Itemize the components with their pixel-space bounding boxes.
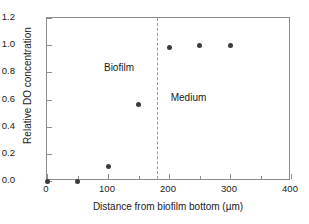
data-point — [228, 43, 233, 48]
biofilm-medium-boundary — [157, 18, 158, 179]
y-axis-tick-label: 0.6 — [0, 94, 15, 104]
y-axis-tick — [47, 154, 52, 155]
y-axis-title: Relative DO concentration — [22, 0, 33, 174]
y-axis-tick — [47, 100, 52, 101]
plot-area: BiofilmMedium — [46, 17, 290, 180]
figure-scatter-do-concentration: 0.00.20.40.60.81.01.2 BiofilmMedium 0100… — [0, 0, 309, 224]
data-point — [197, 43, 202, 48]
y-axis-tick-label: 0.4 — [0, 121, 15, 131]
x-axis-tick-label: 200 — [148, 184, 188, 194]
y-axis-tick — [47, 18, 52, 19]
x-axis-minor-tick — [200, 176, 201, 179]
biofilm-region-label: Biofilm — [104, 61, 134, 72]
x-axis-tick — [230, 174, 231, 179]
medium-region-label: Medium — [171, 91, 207, 102]
x-axis-tick-label: 400 — [270, 184, 309, 194]
y-axis-tick-label: 1.0 — [0, 39, 15, 49]
x-axis-minor-tick — [261, 176, 262, 179]
y-axis-tick-label: 0.2 — [0, 148, 15, 158]
x-axis-title: Distance from biofilm bottom (µm) — [46, 201, 290, 212]
data-point — [106, 164, 111, 169]
x-axis-tick — [108, 174, 109, 179]
x-axis-minor-tick — [139, 176, 140, 179]
data-point — [75, 179, 80, 184]
x-axis-tick-label: 300 — [209, 184, 249, 194]
x-axis-tick-label: 0 — [26, 184, 66, 194]
y-axis-tick — [47, 45, 52, 46]
y-axis-tick-label: 0.8 — [0, 66, 15, 76]
data-point — [167, 45, 172, 50]
y-axis-tick-label: 0.0 — [0, 175, 15, 185]
y-axis-tick — [47, 127, 52, 128]
x-axis-tick — [291, 174, 292, 179]
x-axis-tick — [169, 174, 170, 179]
y-axis-tick — [47, 72, 52, 73]
x-axis-tick-label: 100 — [87, 184, 127, 194]
y-axis-tick-label: 1.2 — [0, 12, 15, 22]
data-point — [136, 102, 141, 107]
